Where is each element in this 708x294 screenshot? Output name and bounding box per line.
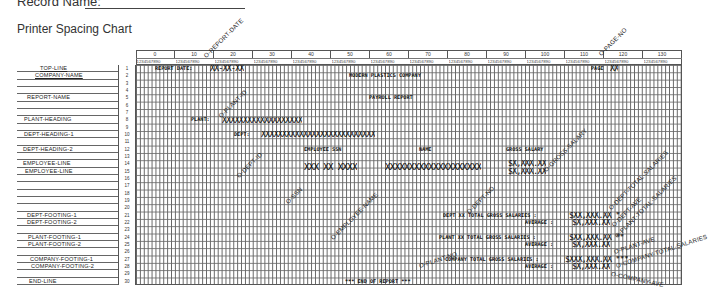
row-number: 28 (118, 263, 136, 270)
column-units-label: 1234567890 (332, 58, 371, 65)
row-label: COMPANY-FOOTING-2 (31, 263, 94, 270)
row-number: 14 (118, 160, 136, 167)
report-date-field: XX-XX-XX (210, 65, 244, 72)
row-number: 19 (118, 197, 136, 204)
row-label-line (17, 86, 118, 87)
row-number: 3 (118, 80, 136, 87)
row-label: DEPT-HEADING-1 (24, 131, 74, 138)
plant-label: PLANT: (191, 116, 210, 123)
column-tens-label: 60 (370, 50, 409, 58)
column-units-label: 1234567890 (293, 58, 332, 65)
column-tens-label: 20 (214, 50, 253, 58)
company-total-text: COMPANY TOTAL GROSS SALARIES : (445, 256, 539, 263)
company-average-text: AVERAGE : (525, 263, 553, 270)
report-date-label: REPORT DATE: (155, 65, 192, 72)
column-tens-label: 130 (643, 50, 682, 58)
gross-salary-field-1: $X,XXX.XX (508, 160, 546, 167)
row-number: 29 (118, 270, 136, 277)
row-number: 30 (118, 278, 136, 285)
column-tens-label: 30 (253, 50, 292, 58)
employee-name-field: XXXXXXXXXXXXXXXXXXXX (385, 160, 481, 174)
row-number: 1 (118, 65, 136, 72)
column-units-label: 1234567890 (527, 58, 566, 65)
dept-label: DEPT: (234, 131, 250, 138)
plant-average-field: $X,XXX.XX (572, 241, 610, 248)
dept-field: XXXXXXXXXXXXXXXXXXXXXXXXXXX (261, 131, 375, 138)
row-label: DEPT-FOOTING-2 (27, 219, 77, 226)
plant-field: XXXXXXXXXXXXXXXXXXX (222, 117, 302, 124)
row-label-line (17, 189, 118, 190)
column-tens-label: 80 (448, 50, 487, 58)
row-number: 17 (118, 182, 136, 189)
end-of-report-text: *** END OF REPORT *** (345, 278, 411, 285)
row-number: 9 (118, 124, 136, 131)
row-number: 24 (118, 234, 136, 241)
row-number: 5 (118, 94, 136, 101)
gross-salary-field-2: $X,XXX.XX (508, 168, 546, 175)
row-label: EMPLOYEE-LINE (25, 168, 73, 175)
row-number: 16 (118, 175, 136, 182)
row-number: 11 (118, 138, 136, 145)
row-number: 20 (118, 204, 136, 211)
column-tens-label: 120 (604, 50, 643, 58)
row-label: COMPANY-FOOTING-1 (30, 256, 93, 263)
row-number: 10 (118, 131, 136, 138)
row-number: 23 (118, 226, 136, 233)
column-units-label: 1234567890 (410, 58, 449, 65)
row-label: TOP-LINE (40, 65, 67, 72)
row-number: 13 (118, 153, 136, 160)
dept-average-field: $X,XXX.XX (572, 219, 610, 226)
row-label: PLANT-FOOTING-1 (28, 234, 81, 241)
row-label: DEPT-HEADING-2 (23, 146, 73, 153)
column-units-label: 1234567890 (488, 58, 527, 65)
row-label: END-LINE (29, 278, 57, 285)
row-number: 21 (118, 212, 136, 219)
column-tens-label: 100 (526, 50, 565, 58)
row-label: DEPT-FOOTING-1 (27, 212, 77, 219)
dept-total-field: $XX,XXX.XX * (569, 212, 620, 219)
column-units-label: 1234567890 (566, 58, 605, 65)
report-name-text: PAYROLL REPORT (369, 94, 413, 101)
column-tens-label: 70 (409, 50, 448, 58)
row-number: 18 (118, 190, 136, 197)
column-tens-label: 50 (331, 50, 370, 58)
column-tens-label: 40 (292, 50, 331, 58)
page-label: PAGE (591, 65, 604, 72)
column-units-label: 1234567890 (605, 58, 644, 65)
plant-total-text: PLANT XX TOTAL GROSS SALARIES : (439, 234, 536, 241)
company-name-text: MODERN PLASTICS COMPANY (349, 72, 421, 79)
row-number: 22 (118, 219, 136, 226)
row-number: 6 (118, 102, 136, 109)
row-label: PLANT-FOOTING-2 (28, 241, 81, 248)
row-number: 15 (118, 168, 136, 175)
row-label-line (17, 196, 118, 197)
column-heading-gross-salary: GROSS SALARY (506, 146, 543, 153)
record-name-field[interactable] (85, 8, 245, 9)
page-field: XX (610, 65, 618, 72)
column-units-label: 1234567890 (371, 58, 410, 65)
row-number: 8 (118, 116, 136, 123)
dept-average-text: AVERAGE : (525, 219, 553, 226)
row-label: REPORT-NAME (27, 94, 70, 101)
dept-total-text: DEPT XX TOTAL GROSS SALARIES : (443, 212, 537, 219)
column-units-label: 1234567890 (449, 58, 488, 65)
column-units-label: 1234567890 (137, 58, 176, 65)
row-number: 26 (118, 248, 136, 255)
column-units-label: 1234567890 (254, 58, 293, 65)
row-label-line (17, 181, 118, 182)
row-number: 4 (118, 87, 136, 94)
row-label-line (17, 108, 118, 109)
plant-average-text: AVERAGE : (525, 241, 553, 248)
row-label-line (17, 203, 118, 204)
row-label: PLANT-HEADING (24, 116, 72, 123)
ssn-field: XXX XX XXXX (304, 160, 357, 174)
column-tens-label: 90 (487, 50, 526, 58)
row-number: 27 (118, 256, 136, 263)
row-number: 7 (118, 109, 136, 116)
column-heading-ssn: EMPLOYEE SSN (304, 146, 341, 153)
column-units-label: 1234567890 (644, 58, 683, 65)
column-tens-label: 0 (136, 50, 175, 58)
row-number: 12 (118, 146, 136, 153)
row-label: COMPANY-NAME (35, 72, 83, 79)
